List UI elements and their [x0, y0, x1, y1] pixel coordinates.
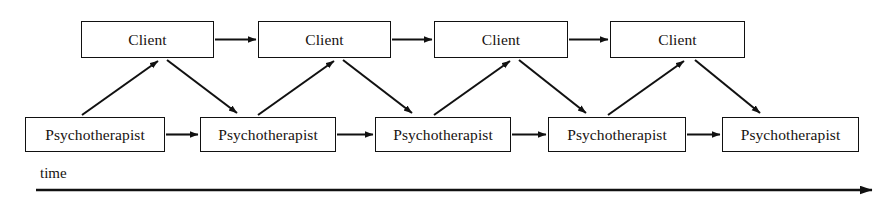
psychotherapist-box-2[interactable]: Psychotherapist [200, 117, 336, 152]
time-axis-label: time [40, 166, 67, 181]
psychotherapist-box-4[interactable]: Psychotherapist [548, 117, 686, 152]
therapist-to-client-arrows [82, 61, 684, 115]
arrow-client0-therapist1 [167, 60, 237, 113]
client-box-4[interactable]: Client [610, 21, 745, 58]
arrow-therapist3-client3 [608, 61, 684, 115]
arrow-therapist0-client0 [82, 61, 158, 115]
client-box-1[interactable]: Client [81, 21, 214, 58]
arrow-client2-therapist3 [519, 60, 586, 113]
client-box-2[interactable]: Client [258, 21, 391, 58]
client-box-label: Client [305, 32, 344, 48]
psychotherapist-box-5[interactable]: Psychotherapist [722, 117, 859, 152]
client-to-therapist-arrows [167, 60, 760, 113]
arrow-client3-therapist4 [695, 60, 760, 113]
psychotherapist-box-label: Psychotherapist [45, 127, 145, 143]
psychotherapist-box-label: Psychotherapist [218, 127, 318, 143]
psychotherapist-box-3[interactable]: Psychotherapist [375, 117, 511, 152]
psychotherapist-box-label: Psychotherapist [393, 127, 493, 143]
client-box-3[interactable]: Client [434, 21, 568, 58]
arrow-client1-therapist2 [343, 60, 412, 113]
sequence-diagram: Client Client Client Client Psychotherap… [0, 0, 891, 207]
psychotherapist-box-1[interactable]: Psychotherapist [25, 117, 165, 152]
psychotherapist-box-label: Psychotherapist [567, 127, 667, 143]
client-box-label: Client [128, 32, 167, 48]
arrow-therapist1-client1 [258, 61, 334, 115]
client-box-label: Client [658, 32, 697, 48]
client-box-label: Client [482, 32, 521, 48]
arrow-therapist2-client2 [434, 61, 510, 115]
psychotherapist-box-label: Psychotherapist [741, 127, 841, 143]
